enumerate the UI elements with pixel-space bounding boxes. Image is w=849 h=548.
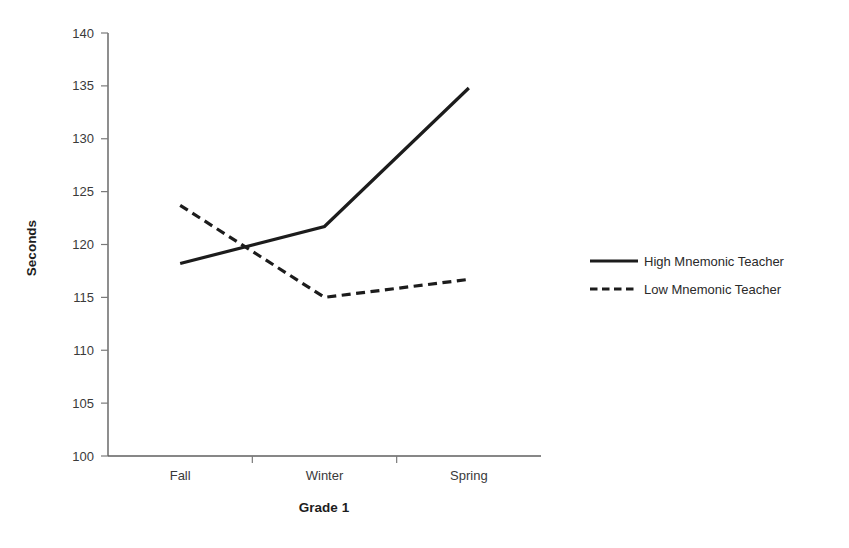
chart-figure: 100105110115120125130135140 Seconds Fall… <box>0 0 849 548</box>
y-tick-marks <box>101 33 108 456</box>
x-category-label: Spring <box>450 468 488 483</box>
y-tick-labels: 100105110115120125130135140 <box>72 26 94 464</box>
x-category-labels: FallWinterSpring <box>170 468 488 483</box>
x-category-label: Winter <box>306 468 344 483</box>
x-axis: FallWinterSpring Grade 1 <box>108 456 541 515</box>
chart-legend: High Mnemonic TeacherLow Mnemonic Teache… <box>590 254 785 297</box>
line-chart: 100105110115120125130135140 Seconds Fall… <box>0 0 849 548</box>
y-tick-label: 110 <box>73 343 94 358</box>
x-tick-marks <box>252 456 396 463</box>
y-axis-title: Seconds <box>24 220 39 276</box>
legend-label: High Mnemonic Teacher <box>644 254 785 269</box>
y-axis: 100105110115120125130135140 Seconds <box>24 26 108 464</box>
y-tick-label: 130 <box>72 131 94 146</box>
y-tick-label: 100 <box>72 449 94 464</box>
y-tick-label: 120 <box>72 237 94 252</box>
series-line-solid <box>180 88 469 264</box>
y-tick-label: 115 <box>73 290 94 305</box>
series-lines <box>180 88 469 297</box>
legend-label: Low Mnemonic Teacher <box>644 282 782 297</box>
y-tick-label: 105 <box>72 396 94 411</box>
y-tick-label: 125 <box>72 184 94 199</box>
x-axis-title: Grade 1 <box>299 500 350 515</box>
x-category-label: Fall <box>170 468 191 483</box>
y-tick-label: 140 <box>72 26 94 41</box>
y-tick-label: 135 <box>72 78 94 93</box>
